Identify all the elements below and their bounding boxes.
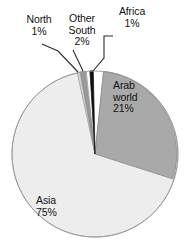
pie-label-north-name: North bbox=[17, 14, 61, 26]
pie-chart-figure: North 1% Other South 2% Africa 1% Arab w… bbox=[0, 0, 193, 251]
pie-label-arab-world-percent: 21% bbox=[113, 103, 159, 115]
pie-label-other-south-percent: 2% bbox=[61, 36, 103, 48]
pie-label-asia-name: Asia bbox=[36, 195, 86, 207]
leader-line-north bbox=[42, 44, 78, 72]
pie-label-africa: Africa 1% bbox=[110, 6, 154, 29]
pie-label-asia-percent: 75% bbox=[36, 207, 86, 219]
pie-label-africa-name: Africa bbox=[110, 6, 154, 18]
pie-label-north-percent: 1% bbox=[17, 26, 61, 38]
pie-label-other-south: Other South 2% bbox=[61, 13, 103, 48]
pie-label-arab-world-name: Arab bbox=[113, 80, 159, 92]
pie-label-asia: Asia 75% bbox=[36, 195, 86, 218]
pie-label-other-south-name: Other bbox=[61, 13, 103, 25]
pie-label-north: North 1% bbox=[17, 14, 61, 37]
pie-label-arab-world: Arab world 21% bbox=[113, 80, 159, 115]
pie-label-africa-percent: 1% bbox=[110, 18, 154, 30]
